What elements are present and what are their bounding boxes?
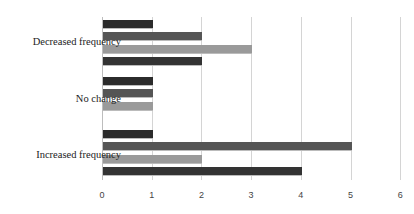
bar-chart: Decreased frequency No change Increased … <box>0 0 414 214</box>
bar <box>103 57 202 66</box>
gridline <box>301 17 302 180</box>
x-tick-label: 3 <box>249 190 254 200</box>
bar <box>103 45 252 54</box>
x-tick-label: 4 <box>298 190 303 200</box>
gridline <box>251 17 252 180</box>
gridline <box>351 17 352 180</box>
x-tick-label: 2 <box>199 190 204 200</box>
x-tick-label: 6 <box>398 190 403 200</box>
gridline <box>400 17 401 180</box>
bar <box>103 142 352 151</box>
bar <box>103 20 153 29</box>
category-label: No change <box>76 93 121 104</box>
x-tick-label: 1 <box>149 190 154 200</box>
x-tick-label: 5 <box>348 190 353 200</box>
category-label: Increased frequency <box>36 149 121 160</box>
x-tick-label: 0 <box>99 190 104 200</box>
bar <box>103 167 302 176</box>
bar <box>103 77 153 86</box>
category-label: Decreased frequency <box>33 36 121 47</box>
bar <box>103 130 153 139</box>
